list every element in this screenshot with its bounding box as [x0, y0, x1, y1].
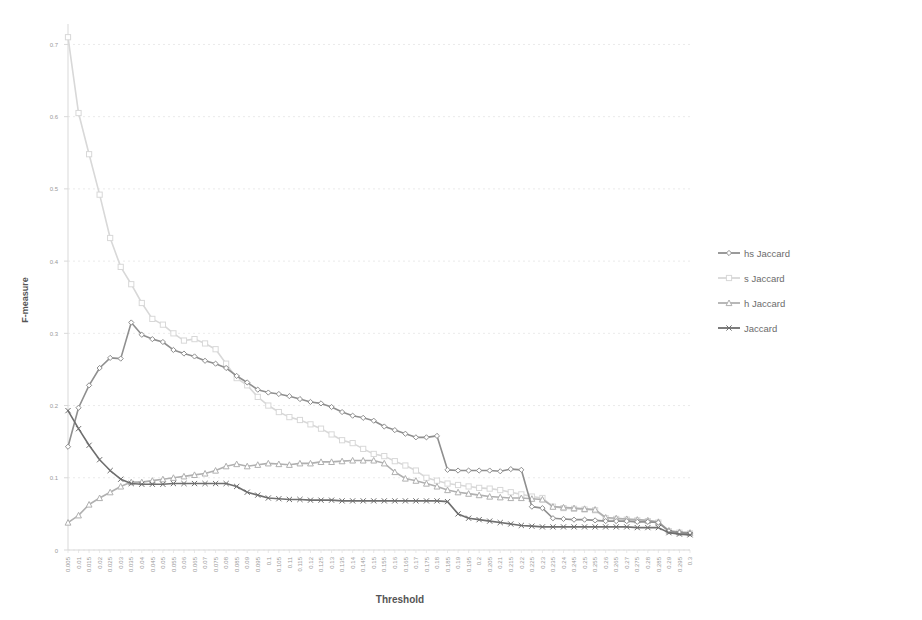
data-point-marker [434, 433, 439, 438]
gridlines [68, 44, 690, 550]
data-point-marker [498, 469, 503, 474]
data-point-marker [139, 300, 144, 305]
data-point-marker [266, 390, 271, 395]
x-tick-label: 0.11 [287, 556, 293, 568]
series-line [68, 323, 690, 534]
y-tick-label: 0 [55, 548, 59, 554]
data-point-marker [287, 415, 292, 420]
series-h-jaccard [65, 457, 693, 535]
data-point-marker [361, 415, 366, 420]
data-point-marker [477, 468, 482, 473]
data-point-marker [508, 467, 513, 472]
data-point-marker [160, 322, 165, 327]
data-point-marker [108, 468, 113, 473]
x-tick-label: 0.21 [497, 556, 503, 568]
legend: hs Jaccards Jaccardh JaccardJaccard [718, 248, 790, 334]
data-point-marker [65, 35, 70, 40]
y-tick-label: 0.4 [50, 259, 59, 265]
y-tick-label: 0.5 [50, 186, 59, 192]
x-tick-label: 0.125 [318, 556, 324, 572]
legend-swatch-marker [726, 250, 731, 255]
data-point-marker [403, 431, 408, 436]
x-tick-label: 0.18 [434, 556, 440, 568]
data-point-marker [108, 235, 113, 240]
x-tick-label: 0.065 [192, 556, 198, 572]
y-tick-label: 0.2 [50, 403, 59, 409]
data-point-marker [455, 482, 460, 487]
data-point-marker [192, 337, 197, 342]
data-point-marker [571, 517, 576, 522]
series-s-jaccard [65, 35, 692, 536]
axes [68, 24, 690, 550]
x-tick-label: 0.04 [139, 556, 145, 568]
legend-item-hs-jaccard[interactable]: hs Jaccard [718, 248, 790, 259]
x-tick-label: 0.01 [76, 556, 82, 568]
x-tick-label: 0.28 [645, 556, 651, 568]
data-point-marker [192, 354, 197, 359]
x-tick-label: 0.24 [561, 556, 567, 568]
x-tick-label: 0.135 [339, 556, 345, 572]
x-tick-label: 0.13 [329, 556, 335, 568]
data-point-marker [350, 441, 355, 446]
data-point-marker [403, 463, 408, 468]
legend-swatch-marker [726, 275, 731, 280]
data-point-marker [118, 264, 123, 269]
x-tick-label: 0.205 [487, 556, 493, 572]
y-tick-label: 0.1 [50, 475, 59, 481]
x-tick-label: 0.29 [666, 556, 672, 568]
x-tick-label: 0.05 [160, 556, 166, 568]
x-tick-label: 0.015 [86, 556, 92, 572]
data-point-marker [202, 341, 207, 346]
y-tick-label: 0.3 [50, 331, 59, 337]
data-point-marker [445, 481, 450, 486]
legend-label: Jaccard [744, 323, 777, 334]
x-tick-label: 0.265 [613, 556, 619, 572]
data-point-marker [593, 518, 598, 523]
y-tick-label: 0.7 [50, 42, 59, 48]
data-point-marker [76, 405, 81, 410]
data-point-marker [86, 443, 91, 448]
data-point-marker [582, 517, 587, 522]
series-jaccard [65, 408, 692, 537]
legend-item-jaccard[interactable]: Jaccard [718, 323, 777, 334]
x-tick-label: 0.16 [392, 556, 398, 568]
data-point-marker [213, 347, 218, 352]
data-point-marker [361, 446, 366, 451]
chart-page: 00.10.20.30.40.50.60.7 0.0050.010.0150.0… [0, 0, 922, 620]
x-tick-label: 0.285 [656, 556, 662, 572]
x-tick-label: 0.03 [118, 556, 124, 568]
data-point-marker [392, 459, 397, 464]
data-point-marker [413, 435, 418, 440]
data-point-marker [413, 468, 418, 473]
data-point-marker [255, 394, 260, 399]
data-point-marker [424, 435, 429, 440]
x-tick-label: 0.045 [150, 556, 156, 572]
x-tick-label: 0.215 [508, 556, 514, 572]
x-tick-label: 0.055 [171, 556, 177, 572]
data-point-marker [118, 356, 123, 361]
legend-item-s-jaccard[interactable]: s Jaccard [718, 273, 785, 284]
data-point-marker [519, 467, 524, 472]
x-tick-label: 0.225 [529, 556, 535, 572]
y-tick-label: 0.6 [50, 114, 59, 120]
x-tick-label: 0.025 [107, 556, 113, 572]
data-point-marker [97, 192, 102, 197]
data-point-marker [487, 468, 492, 473]
x-tick-label: 0.175 [424, 556, 430, 572]
x-tick-label: 0.2 [476, 556, 482, 565]
data-point-marker [266, 403, 271, 408]
x-tick-label: 0.255 [592, 556, 598, 572]
x-tick-label: 0.235 [550, 556, 556, 572]
data-point-marker [65, 444, 70, 449]
data-point-marker [318, 426, 323, 431]
x-axis-tick-labels: 0.0050.010.0150.020.0250.030.0350.040.04… [65, 550, 693, 572]
data-point-marker [150, 316, 155, 321]
x-tick-label: 0.14 [350, 556, 356, 568]
x-tick-label: 0.15 [371, 556, 377, 568]
data-point-marker [129, 282, 134, 287]
data-point-marker [276, 409, 281, 414]
legend-item-h-jaccard[interactable]: h Jaccard [718, 298, 785, 309]
data-point-marker [350, 413, 355, 418]
x-tick-label: 0.23 [540, 556, 546, 568]
x-tick-label: 0.095 [255, 556, 261, 572]
